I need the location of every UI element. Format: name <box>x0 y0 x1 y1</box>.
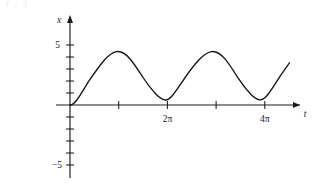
x-tick-label-4pi: 4π <box>260 114 270 124</box>
x-axis-arrowhead <box>293 102 300 108</box>
y-tick-label-minus5: −5 <box>52 160 62 170</box>
x-axis-label: t <box>304 109 307 119</box>
y-axis-label: x <box>56 15 62 25</box>
figure-container: ( , ) x t 5 −5 2π 4π <box>0 0 322 191</box>
y-tick-label-5: 5 <box>55 40 60 50</box>
x-tick-label-2pi: 2π <box>163 114 173 124</box>
y-axis-arrowhead <box>67 15 73 23</box>
data-curve <box>70 51 290 105</box>
plot-svg: x t 5 −5 2π 4π <box>0 0 322 191</box>
